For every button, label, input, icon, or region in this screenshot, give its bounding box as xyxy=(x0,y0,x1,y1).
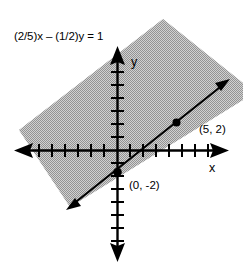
equation-label: (2/5)x – (1/2)y = 1 xyxy=(14,31,103,43)
x-axis-label: x xyxy=(209,162,215,175)
linear-inequality-graph: (2/5)x – (1/2)y = 1 y x (5, 2) (0, -2) xyxy=(0,0,243,279)
point-label-5-2: (5, 2) xyxy=(199,124,226,136)
point-marker-0-neg2 xyxy=(113,168,122,177)
point-label-0-neg2: (0, -2) xyxy=(129,180,160,192)
point-marker-5-2 xyxy=(173,119,181,127)
y-axis-label: y xyxy=(131,56,137,69)
